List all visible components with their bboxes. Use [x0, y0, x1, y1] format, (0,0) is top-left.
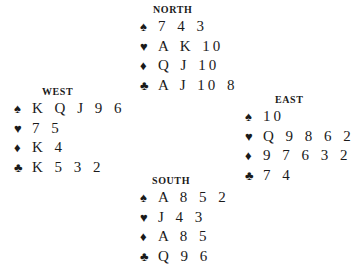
south-hearts-row: ♥ J 4 3 [140, 209, 229, 229]
club-icon: ♣ [140, 79, 158, 92]
north-diamonds-row: ♦ Q J 10 [140, 57, 238, 77]
east-hearts-row: ♥ Q 9 8 6 2 [245, 128, 354, 148]
east-spades-cards: 10 [263, 108, 284, 125]
hand-title-south: SOUTH [152, 175, 229, 186]
east-spades-row: ♠ 10 [245, 108, 354, 128]
north-clubs-cards: A J 10 8 [158, 77, 238, 94]
heart-icon: ♥ [245, 130, 263, 143]
south-diamonds-cards: A 8 5 [158, 228, 210, 245]
west-clubs-cards: K 5 3 2 [32, 159, 104, 176]
diamond-icon: ♦ [140, 230, 158, 243]
north-clubs-row: ♣ A J 10 8 [140, 77, 238, 97]
south-spades-cards: A 8 5 2 [158, 189, 229, 206]
hand-title-east: EAST [275, 94, 354, 105]
north-hearts-row: ♥ A K 10 [140, 38, 238, 58]
west-spades-row: ♠ K Q J 9 6 [14, 100, 125, 120]
club-icon: ♣ [14, 161, 32, 174]
diamond-icon: ♦ [14, 141, 32, 154]
club-icon: ♣ [140, 250, 158, 263]
south-diamonds-row: ♦ A 8 5 [140, 228, 229, 248]
hand-title-west: WEST [42, 86, 125, 97]
hand-west: WEST ♠ K Q J 9 6 ♥ 7 5 ♦ K 4 ♣ K 5 3 2 [14, 86, 125, 178]
spade-icon: ♠ [14, 102, 32, 115]
east-clubs-cards: 7 4 [263, 167, 293, 184]
east-diamonds-cards: 9 7 6 3 2 [263, 147, 351, 164]
heart-icon: ♥ [14, 122, 32, 135]
club-icon: ♣ [245, 169, 263, 182]
hand-title-north: NORTH [153, 4, 238, 15]
spade-icon: ♠ [140, 20, 158, 33]
east-clubs-row: ♣ 7 4 [245, 167, 354, 187]
south-clubs-cards: Q 9 6 [158, 248, 210, 265]
north-hearts-cards: A K 10 [158, 38, 223, 55]
south-clubs-row: ♣ Q 9 6 [140, 248, 229, 266]
hand-north: NORTH ♠ 7 4 3 ♥ A K 10 ♦ Q J 10 ♣ A J 10… [140, 4, 238, 96]
heart-icon: ♥ [140, 211, 158, 224]
east-diamonds-row: ♦ 9 7 6 3 2 [245, 147, 354, 167]
spade-icon: ♠ [245, 110, 263, 123]
west-spades-cards: K Q J 9 6 [32, 100, 125, 117]
north-spades-row: ♠ 7 4 3 [140, 18, 238, 38]
diamond-icon: ♦ [140, 59, 158, 72]
west-diamonds-cards: K 4 [32, 139, 65, 156]
west-diamonds-row: ♦ K 4 [14, 139, 125, 159]
west-clubs-row: ♣ K 5 3 2 [14, 159, 125, 179]
hand-east: EAST ♠ 10 ♥ Q 9 8 6 2 ♦ 9 7 6 3 2 ♣ 7 4 [245, 94, 354, 186]
spade-icon: ♠ [140, 191, 158, 204]
diamond-icon: ♦ [245, 149, 263, 162]
west-hearts-cards: 7 5 [32, 120, 62, 137]
hand-south: SOUTH ♠ A 8 5 2 ♥ J 4 3 ♦ A 8 5 ♣ Q 9 6 [140, 175, 229, 266]
heart-icon: ♥ [140, 40, 158, 53]
east-hearts-cards: Q 9 8 6 2 [263, 128, 354, 145]
north-spades-cards: 7 4 3 [158, 18, 207, 35]
west-hearts-row: ♥ 7 5 [14, 120, 125, 140]
south-spades-row: ♠ A 8 5 2 [140, 189, 229, 209]
south-hearts-cards: J 4 3 [158, 209, 205, 226]
north-diamonds-cards: Q J 10 [158, 57, 219, 74]
